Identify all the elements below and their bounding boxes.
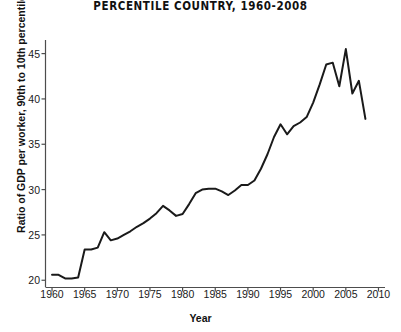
plot-area bbox=[0, 0, 401, 332]
axis-spines bbox=[46, 40, 386, 288]
data-series-line bbox=[52, 49, 365, 278]
chart-figure: PERCENTILE COUNTRY, 1960-2008 Ratio of G… bbox=[0, 0, 401, 332]
